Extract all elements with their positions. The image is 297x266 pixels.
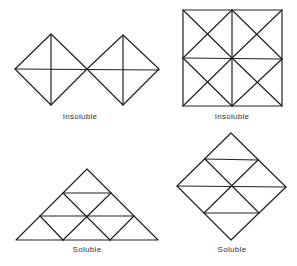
triangle-figure: [16, 169, 158, 240]
square-grid-figure: [183, 10, 282, 106]
two-diamonds-figure: [15, 34, 159, 105]
diamond-figure: [177, 133, 286, 240]
label-triangle: Soluble: [73, 245, 102, 254]
label-two-diamonds: Insoluble: [63, 112, 98, 121]
figures-canvas: [0, 0, 297, 266]
label-square-grid: Insoluble: [215, 112, 250, 121]
label-diamond: Soluble: [218, 245, 247, 254]
